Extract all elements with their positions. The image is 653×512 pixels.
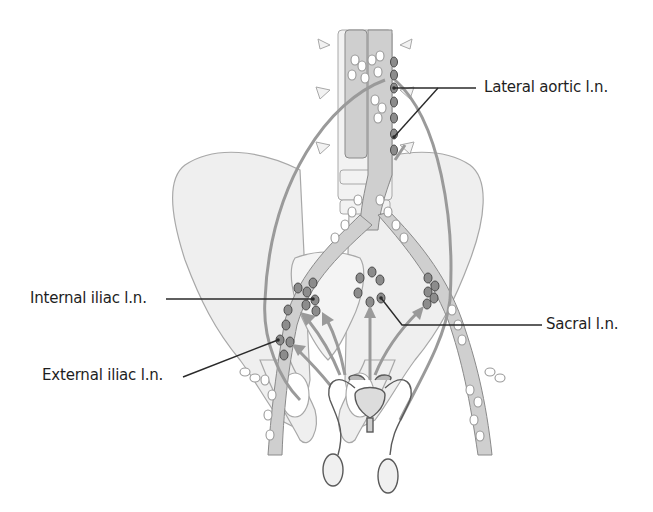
anatomy-illustration [0,0,653,512]
label-sacral: Sacral l.n. [546,315,618,333]
label-external-iliac: External iliac l.n. [42,366,163,384]
genital-organs [323,375,411,493]
label-lateral-aortic: Lateral aortic l.n. [484,78,608,96]
leader-lateral-aortic-2 [394,88,438,137]
lymphatic-drainage-diagram: Lateral aortic l.n. Internal iliac l.n. … [0,0,653,512]
label-internal-iliac: Internal iliac l.n. [30,289,147,307]
